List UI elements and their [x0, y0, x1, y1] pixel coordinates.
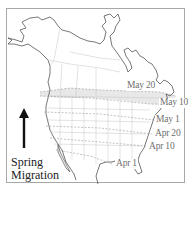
up-arrow-icon — [18, 108, 30, 148]
legend-label: Spring Migration — [11, 156, 59, 181]
baja-coast — [58, 144, 70, 172]
isoline-label-apr10: Apr 10 — [148, 142, 175, 152]
isoline-label-may10: May 10 — [159, 98, 189, 108]
isoline-label-apr1: Apr 1 — [115, 159, 138, 169]
alaska-coast — [8, 38, 50, 66]
isoline-label-apr20: Apr 20 — [154, 129, 181, 139]
isoline-label-may1: May 1 — [155, 115, 181, 125]
legend-line-1: Spring — [11, 156, 59, 169]
isoline-label-may20: May 20 — [126, 81, 156, 91]
legend-line-2: Migration — [11, 169, 59, 182]
